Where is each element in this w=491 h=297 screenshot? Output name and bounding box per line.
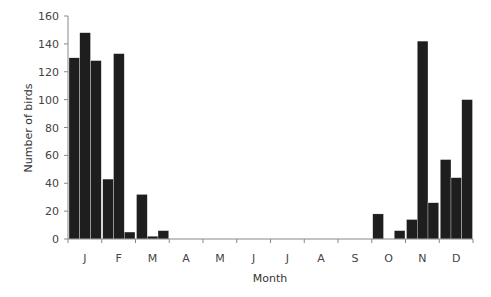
x-tick-label: O [384,252,393,265]
bar [451,178,462,239]
x-tick-label: D [452,252,460,265]
bar [440,160,451,239]
bar [91,61,102,239]
bar [462,100,473,239]
y-tick-label: 0 [52,233,59,246]
y-tick-label: 20 [45,205,59,218]
bar [417,41,428,239]
bar [137,194,148,239]
bar-chart: 020406080100120140160 JFMAMJJASOND Month… [0,0,491,297]
bar [158,231,169,239]
bar [69,58,80,239]
bar [114,54,125,239]
bar [124,232,135,239]
x-axis-ticks: JFMAMJJASOND [68,239,473,265]
x-tick-label: J [251,252,255,265]
x-axis-title: Month [253,272,288,285]
bar [407,219,418,239]
x-tick-label: J [285,252,289,265]
y-tick-label: 120 [38,66,59,79]
x-tick-label: A [317,252,325,265]
x-tick-label: F [115,252,121,265]
bar [373,214,384,239]
y-tick-label: 80 [45,122,59,135]
x-tick-label: J [82,252,86,265]
x-tick-label: A [182,252,190,265]
x-tick-label: S [351,252,358,265]
y-tick-label: 160 [38,10,59,23]
bar [103,179,114,239]
y-tick-label: 100 [38,94,59,107]
y-axis-title: Number of birds [22,83,35,172]
y-axis-ticks: 020406080100120140160 [38,10,68,246]
bar [428,203,439,239]
bar [394,231,405,239]
bars-group [69,33,473,239]
x-tick-label: N [418,252,426,265]
y-tick-label: 40 [45,177,59,190]
x-tick-label: M [148,252,158,265]
bar [80,33,91,239]
y-tick-label: 140 [38,38,59,51]
y-tick-label: 60 [45,149,59,162]
x-tick-label: M [215,252,225,265]
